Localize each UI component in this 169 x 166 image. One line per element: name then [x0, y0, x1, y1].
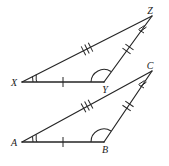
vertex-label-b: B	[102, 144, 108, 155]
geometry-diagram: Z X Y	[0, 0, 169, 166]
vertex-label-a: A	[10, 137, 18, 148]
vertex-label-z: Z	[147, 5, 153, 16]
vertex-label-c: C	[147, 60, 154, 71]
geometry-figure: Z X Y	[0, 0, 169, 166]
vertex-label-x: X	[10, 77, 18, 88]
